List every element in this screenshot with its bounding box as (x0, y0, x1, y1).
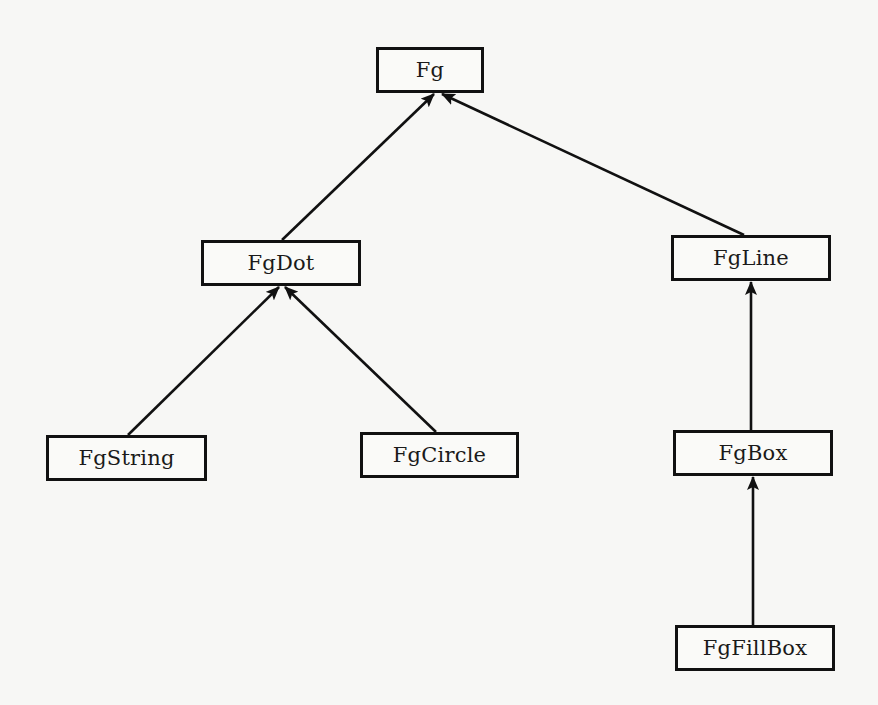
node-fgfillbox: FgFillBox (675, 625, 835, 671)
node-fg: Fg (376, 47, 484, 93)
node-label-fgstring: FgString (78, 446, 174, 470)
arrow-fgline-to-fg (442, 94, 744, 235)
node-fgcircle: FgCircle (360, 432, 519, 478)
node-label-fg: Fg (416, 58, 444, 82)
arrow-fgcircle-to-fgdot (285, 287, 436, 432)
node-label-fgbox: FgBox (719, 441, 788, 465)
node-fgdot: FgDot (201, 240, 361, 286)
class-hierarchy-diagram: Fg FgDot FgLine FgString FgCircle FgBox … (0, 0, 878, 705)
arrow-fgstring-to-fgdot (128, 287, 279, 435)
inheritance-arrows (0, 0, 878, 705)
node-label-fgdot: FgDot (248, 251, 315, 275)
node-fgbox: FgBox (673, 430, 833, 476)
node-label-fgcircle: FgCircle (393, 443, 486, 467)
node-label-fgfillbox: FgFillBox (703, 636, 807, 660)
node-fgline: FgLine (671, 235, 831, 281)
node-label-fgline: FgLine (713, 246, 789, 270)
arrow-fgdot-to-fg (282, 94, 434, 240)
node-fgstring: FgString (46, 435, 207, 481)
